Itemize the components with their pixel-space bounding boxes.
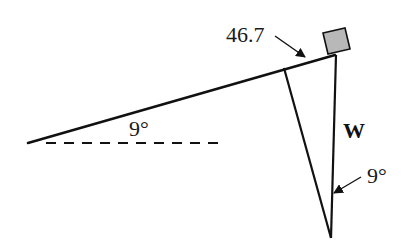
weight-angle-label: 9° [367, 163, 387, 188]
incline-length-label: 46.7 [226, 22, 265, 47]
incline-line [28, 55, 335, 143]
incline-force-diagram: 46.7 9° W 9° [0, 0, 413, 247]
weight-angle-pointer-arrow [334, 177, 361, 193]
weight-vector-line [331, 55, 336, 238]
incline-angle-label: 9° [129, 116, 149, 141]
length-pointer-arrow [275, 36, 305, 57]
weight-label: W [343, 118, 365, 143]
perpendicular-line [284, 68, 331, 238]
block [323, 28, 350, 54]
